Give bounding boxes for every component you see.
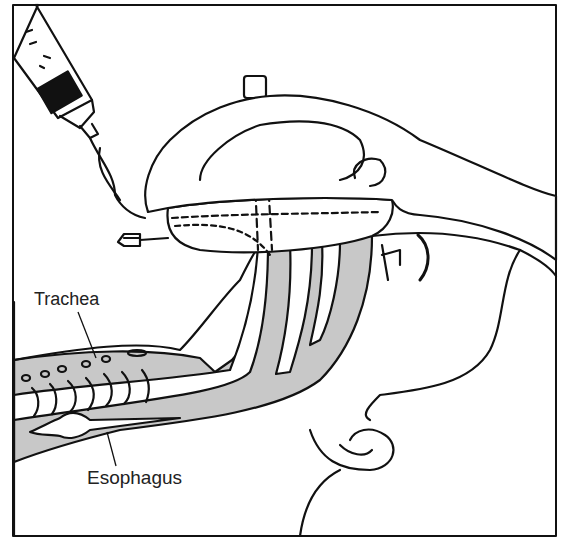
esophagus-label: Esophagus <box>87 468 182 487</box>
syringe-icon <box>14 5 145 218</box>
esophagus-leader-line <box>107 432 116 466</box>
trachea-label: Trachea <box>34 290 99 308</box>
ear <box>310 430 393 470</box>
medical-illustration <box>0 0 570 547</box>
trachea-leader-line <box>78 312 96 358</box>
